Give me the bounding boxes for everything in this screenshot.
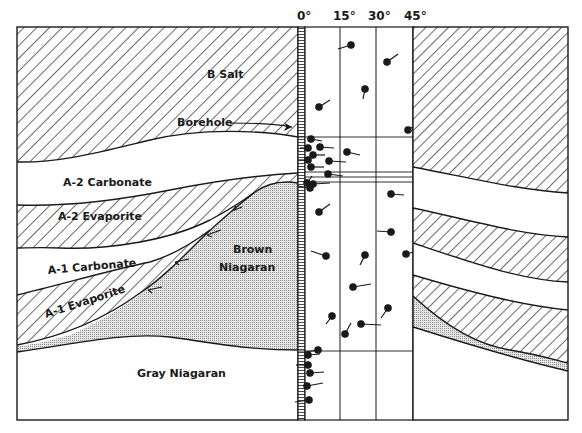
right-section-panel [413,27,568,420]
label-b-salt: B Salt [207,68,244,81]
borehole-track [298,27,305,420]
geologic-cross-section: B Salt Borehole A-2 Carbonate A-2 Evapor… [0,0,582,433]
label-gray-niagaran: Gray Niagaran [137,367,226,380]
dipmeter-panel [295,27,420,420]
label-borehole: Borehole [177,116,232,129]
dip-tick-45: 45° [404,9,427,23]
dip-tick-30: 30° [368,9,391,23]
label-a2-evaporite: A-2 Evaporite [58,210,142,223]
label-brown-niagaran-line1: Brown [233,243,272,256]
dip-tick-15: 15° [333,9,356,23]
left-section-panel [17,27,298,420]
layer-b-salt-right [413,27,568,193]
dip-tick-0: 0° [297,9,311,23]
label-a2-carbonate: A-2 Carbonate [63,176,152,189]
dip-scale: 0° 15° 30° 45° [297,9,427,23]
label-brown-niagaran-line2: Niagaran [219,261,275,274]
